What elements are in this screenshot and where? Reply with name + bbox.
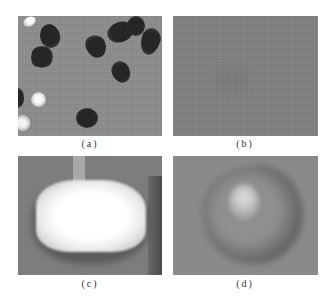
right-dark-edge xyxy=(148,176,162,275)
panel-d-image xyxy=(173,156,318,275)
shade-patch xyxy=(203,56,263,106)
caption-d: (d) xyxy=(215,278,275,289)
highlight xyxy=(229,184,259,220)
panel-b-image xyxy=(173,16,318,136)
bright-spot xyxy=(31,92,46,108)
caption-b: (b) xyxy=(215,138,275,149)
panel-c-image xyxy=(18,156,162,275)
dark-seed xyxy=(76,108,98,128)
caption-c: (c) xyxy=(60,278,120,289)
panel-a-image xyxy=(18,16,162,136)
caption-a: (a) xyxy=(60,138,120,149)
bright-blob xyxy=(36,180,146,252)
